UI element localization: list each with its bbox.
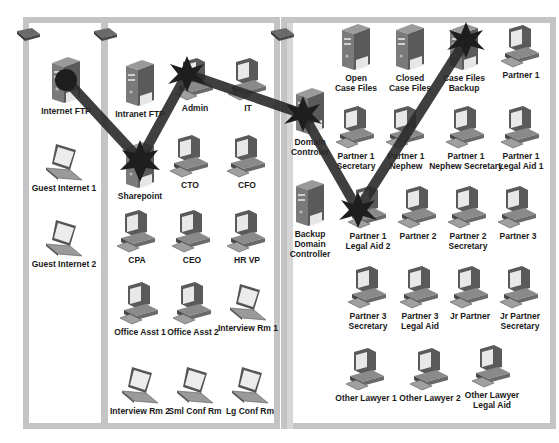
laptop-icon xyxy=(230,365,270,405)
laptop-icon xyxy=(120,365,160,405)
desktop-icon xyxy=(472,345,512,389)
switch-icon xyxy=(268,26,296,42)
node-interview-rm-1[interactable]: Interview Rm 1 xyxy=(208,282,288,333)
desktop-icon xyxy=(501,106,541,150)
server-icon xyxy=(444,22,484,72)
desktop-icon xyxy=(446,106,486,150)
desktop-icon xyxy=(228,58,268,102)
desktop-icon xyxy=(498,186,538,230)
server-icon xyxy=(46,55,86,105)
node-label: Partner 3 xyxy=(478,231,558,241)
desktop-icon xyxy=(170,135,210,179)
laptop-icon xyxy=(44,142,84,182)
desktop-icon xyxy=(501,25,541,69)
desktop-icon xyxy=(386,106,426,150)
node-label: Partner 1 xyxy=(481,70,559,80)
node-guest-internet-2[interactable]: Guest Internet 2 xyxy=(24,218,104,269)
desktop-icon xyxy=(173,282,213,326)
node-jr-partner-secretary[interactable]: Jr Partner Secretary xyxy=(480,266,559,331)
node-internet-ftp[interactable]: Internet FTP xyxy=(26,55,106,116)
server-icon xyxy=(120,58,160,108)
desktop-icon xyxy=(227,135,267,179)
laptop-icon xyxy=(228,282,268,322)
desktop-icon xyxy=(500,266,540,310)
node-label: Guest Internet 2 xyxy=(24,259,104,269)
node-partner-1-legal-aid-1[interactable]: Partner 1 Legal Aid 1 xyxy=(481,106,559,171)
node-partner-1[interactable]: Partner 1 xyxy=(481,25,559,80)
laptop-icon xyxy=(175,365,215,405)
node-label: Partner 1 Legal Aid 1 xyxy=(481,151,559,171)
node-label: Jr Partner Secretary xyxy=(480,311,559,331)
node-label: Other Lawyer Legal Aid xyxy=(452,390,532,410)
desktop-icon xyxy=(410,348,450,392)
node-label: Guest Internet 1 xyxy=(24,183,104,193)
node-guest-internet-1[interactable]: Guest Internet 1 xyxy=(24,142,104,193)
desktop-icon xyxy=(117,210,157,254)
node-label: Sharepoint xyxy=(100,191,180,201)
switch-icon xyxy=(91,26,119,42)
laptop-icon xyxy=(44,218,84,258)
switch-icon xyxy=(14,26,42,42)
node-label: Internet FTP xyxy=(26,106,106,116)
node-partner-3[interactable]: Partner 3 xyxy=(478,186,558,241)
node-other-lawyer-legal-aid[interactable]: Other Lawyer Legal Aid xyxy=(452,345,532,410)
node-lg-conf-rm[interactable]: Lg Conf Rm xyxy=(210,365,290,416)
server-icon xyxy=(290,178,330,228)
desktop-icon xyxy=(172,210,212,254)
desktop-icon xyxy=(227,210,267,254)
desktop-icon xyxy=(346,348,386,392)
node-label: Lg Conf Rm xyxy=(210,406,290,416)
node-label: Interview Rm 1 xyxy=(208,323,288,333)
